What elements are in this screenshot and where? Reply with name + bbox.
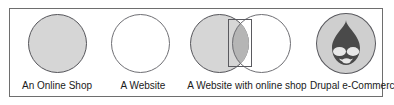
venn-area-an-online-shop xyxy=(12,9,102,75)
diagram-cell-a-website: A Website xyxy=(102,9,184,98)
caption-a-website-with-online-shop: A Website with online shop xyxy=(184,79,310,92)
venn-diagram: An Online Shop A Website A Website with … xyxy=(0,0,394,105)
caption-a-website: A Website xyxy=(102,79,184,92)
diagram-cell-a-website-with-online-shop: A Website with online shop xyxy=(184,9,310,98)
caption-an-online-shop: An Online Shop xyxy=(12,79,102,92)
diagram-cell-an-online-shop: An Online Shop xyxy=(12,9,102,98)
caption-drupal-e-commerce: Drupal e-Commerce xyxy=(310,79,382,92)
circle-website xyxy=(111,14,170,73)
intersection-highlight-rectangle xyxy=(228,19,252,67)
diagram-frame: An Online Shop A Website A Website with … xyxy=(9,8,383,97)
diagram-cell-drupal-e-commerce: Drupal e-Commerce xyxy=(310,9,382,98)
venn-area-a-website xyxy=(102,9,184,75)
circle-online-shop xyxy=(28,14,87,73)
venn-area-a-website-with-online-shop xyxy=(184,9,310,75)
venn-area-drupal-e-commerce xyxy=(310,9,382,75)
drupal-droplet-icon xyxy=(316,13,376,74)
